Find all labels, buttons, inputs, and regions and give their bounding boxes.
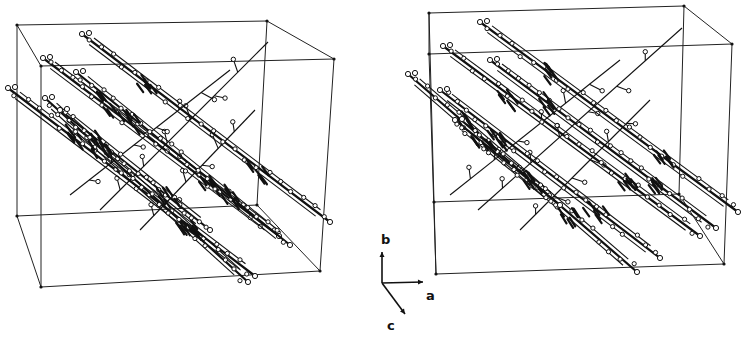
atom <box>233 147 237 151</box>
cell-corner-dot <box>722 262 725 265</box>
atom <box>500 177 504 181</box>
terminal-atom <box>440 43 445 48</box>
cell-corner-dot <box>265 19 268 22</box>
atom <box>225 251 229 255</box>
atom <box>221 140 225 144</box>
cell-corner-dot <box>730 42 733 45</box>
atom <box>509 161 513 165</box>
atom <box>112 52 116 56</box>
terminal-atom <box>412 70 417 75</box>
atom <box>178 103 182 107</box>
cell-corner-dot <box>255 203 258 206</box>
atom <box>557 107 561 111</box>
atom <box>464 108 468 112</box>
atom <box>629 159 633 163</box>
cell-corner-dot <box>434 272 437 275</box>
atom <box>131 176 135 180</box>
atom <box>157 85 161 89</box>
atom <box>525 140 529 144</box>
atom <box>127 169 131 173</box>
terminal-atom <box>86 30 91 35</box>
atom <box>648 145 652 149</box>
ring-bond <box>544 76 550 84</box>
atom <box>413 77 417 81</box>
atom <box>473 117 477 121</box>
atom <box>639 166 643 170</box>
atom <box>495 62 499 66</box>
terminal-atom <box>557 202 562 207</box>
unit-cell-edge <box>17 21 267 25</box>
terminal-atom <box>697 233 702 238</box>
atom <box>681 174 685 178</box>
atom <box>610 224 614 228</box>
atom <box>591 226 595 230</box>
unit-cell-edge <box>17 216 41 287</box>
atom <box>215 242 219 246</box>
atom <box>136 172 140 176</box>
atom <box>627 125 631 129</box>
atom <box>246 205 250 209</box>
atom <box>182 211 186 215</box>
parallel-strand <box>89 44 315 216</box>
atom <box>608 144 612 148</box>
unit-cell-edge <box>17 205 257 216</box>
atom <box>119 65 123 69</box>
terminal-atom <box>487 57 492 62</box>
atom <box>562 186 566 190</box>
atom <box>462 56 466 60</box>
atom <box>231 57 235 61</box>
atom <box>595 140 599 144</box>
atom <box>133 70 137 74</box>
atom <box>82 129 86 133</box>
atom <box>645 195 649 199</box>
a-axis-label: a <box>426 288 435 303</box>
atom <box>633 122 637 126</box>
atom <box>212 97 216 101</box>
atom <box>470 69 474 73</box>
terminal-atom <box>477 19 482 24</box>
atom <box>266 220 270 224</box>
atom <box>731 203 735 207</box>
atom <box>119 171 123 175</box>
atom <box>533 204 537 208</box>
atom <box>690 231 694 235</box>
atom <box>151 181 155 185</box>
atom <box>238 258 242 262</box>
atom <box>584 198 588 202</box>
atom <box>577 142 581 146</box>
unit-cell-edge <box>429 44 732 54</box>
atom <box>279 179 283 183</box>
terminal-atom <box>42 95 47 100</box>
atom <box>449 49 453 53</box>
atom <box>535 159 539 163</box>
atom <box>199 122 203 126</box>
parallel-strand <box>497 70 701 222</box>
atom <box>144 175 148 179</box>
atom <box>165 129 169 133</box>
atom <box>102 88 106 92</box>
terminal-atom <box>444 86 449 91</box>
atom <box>281 240 285 244</box>
atom <box>609 171 613 175</box>
terminal-atom <box>47 54 52 59</box>
atom <box>566 87 570 91</box>
atom <box>635 233 639 237</box>
atom <box>59 68 63 72</box>
atom <box>193 236 197 240</box>
atom <box>71 115 75 119</box>
atom <box>122 162 126 166</box>
atom <box>565 134 569 138</box>
cell-corner-dot <box>15 214 18 217</box>
cell-corner-dot <box>318 269 321 272</box>
atom <box>706 225 710 229</box>
atom <box>501 152 505 156</box>
unit-cell-edge <box>434 202 436 274</box>
unit-cell-edge <box>724 44 732 264</box>
atom <box>532 60 536 64</box>
atom <box>496 82 500 86</box>
cell-corner-dot <box>39 285 42 288</box>
atom <box>463 131 467 135</box>
terminal-atom <box>494 56 499 61</box>
atom <box>163 100 167 104</box>
molecular-chain <box>480 22 738 212</box>
